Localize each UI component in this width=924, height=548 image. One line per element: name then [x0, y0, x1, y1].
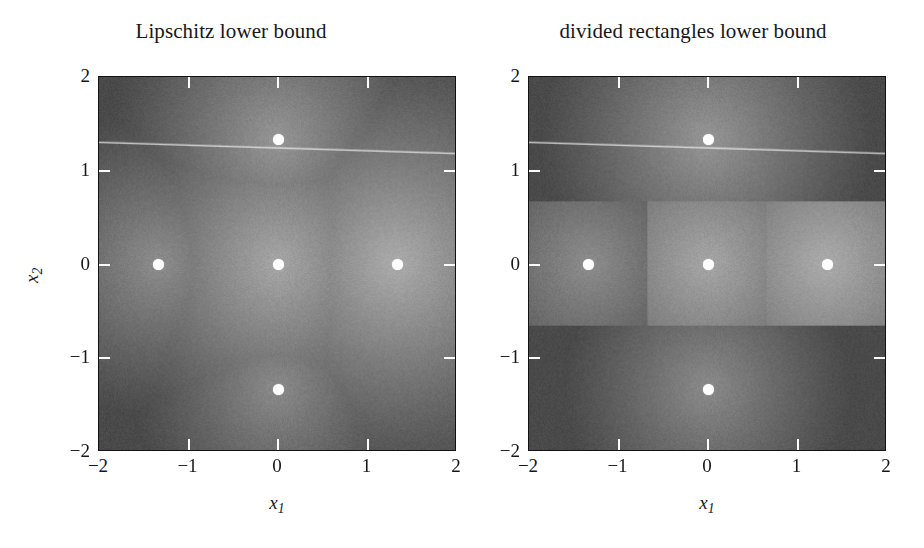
y-axis-label-left: x2: [21, 268, 46, 283]
y-tick-label: −1: [500, 346, 520, 368]
x-tick-label: 0: [272, 455, 282, 477]
panel-title-divided-rectangles: divided rectangles lower bound: [462, 18, 924, 44]
x-axis-label-right: x1: [607, 492, 807, 517]
y-tick-label: 0: [511, 253, 521, 275]
figure-root: Lipschitz lower bound −2−1012210−1−2 x1 …: [0, 0, 924, 548]
panel-title-lipschitz: Lipschitz lower bound: [0, 18, 462, 44]
y-tick-label: 2: [81, 65, 91, 87]
x-tick-label: 2: [881, 455, 891, 477]
y-tick-label: −2: [70, 440, 90, 462]
x-tick-label: −1: [177, 455, 197, 477]
x-tick-label: 1: [362, 455, 372, 477]
y-tick-label: 1: [511, 159, 521, 181]
y-tick-label: 2: [511, 65, 521, 87]
x-tick-label: 0: [702, 455, 712, 477]
y-axis-label-sub-left: 2: [30, 268, 45, 275]
x-tick-label: 2: [451, 455, 461, 477]
plot-area-divided-rectangles: [528, 76, 886, 451]
y-tick-label: 1: [81, 159, 91, 181]
y-axis-label-text-left: x: [21, 275, 42, 283]
heatmap-divided-rectangles: [529, 77, 885, 450]
x-axis-label-left: x1: [177, 492, 377, 517]
panel-lipschitz: Lipschitz lower bound −2−1012210−1−2 x1 …: [0, 0, 462, 548]
x-axis-label-sub-right: 1: [708, 501, 715, 516]
x-axis-label-text-left: x: [269, 492, 277, 513]
x-tick-label: −2: [518, 455, 538, 477]
panel-divided-rectangles: divided rectangles lower bound −2−101221…: [462, 0, 924, 548]
x-tick-label: −1: [607, 455, 627, 477]
x-tick-label: −2: [88, 455, 108, 477]
y-tick-label: 0: [81, 253, 91, 275]
x-axis-label-sub-left: 1: [278, 501, 285, 516]
y-tick-label: −2: [500, 440, 520, 462]
x-axis-label-text-right: x: [699, 492, 707, 513]
x-tick-label: 1: [792, 455, 802, 477]
y-tick-label: −1: [70, 346, 90, 368]
plot-area-lipschitz: [98, 76, 456, 451]
heatmap-lipschitz: [99, 77, 455, 450]
